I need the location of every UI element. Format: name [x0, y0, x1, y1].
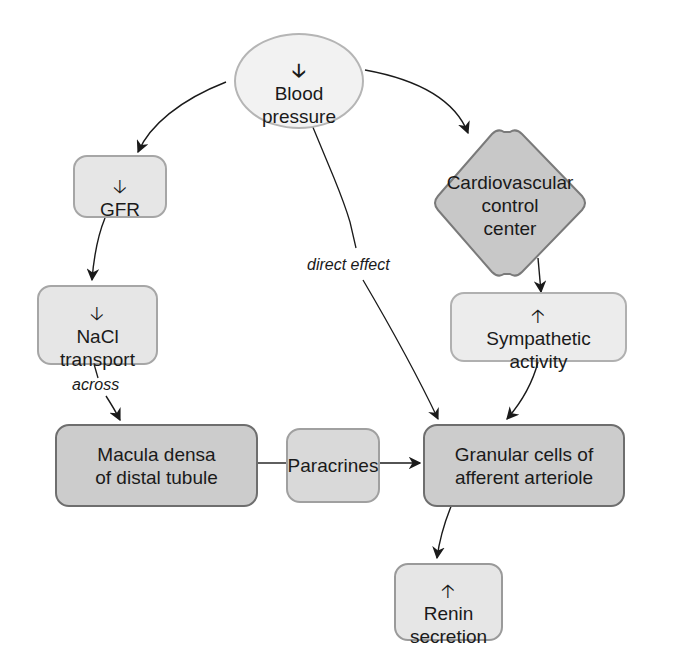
edge-bp-to-cardio: [365, 70, 468, 133]
node-macula-label: Macula densa of distal tubule: [95, 443, 218, 489]
node-cardiovascular-label: Cardiovascular control center: [447, 167, 574, 240]
node-gfr-label: GFR: [100, 199, 140, 220]
edge-gfr-to-nacl: [92, 218, 105, 280]
node-granular-label: Granular cells of afferent arteriole: [455, 443, 593, 489]
node-nacl-label: NaCl transport: [60, 326, 135, 370]
edge-bp-to-granular-part1: [312, 125, 356, 248]
decrease-arrow-icon: 🡣: [90, 303, 104, 324]
node-paracrines: Paracrines: [286, 428, 380, 503]
increase-arrow-icon: 🡡: [531, 305, 545, 326]
edge-bp-to-granular-part2: [363, 280, 438, 419]
node-sympathetic-label: Sympathetic activity: [486, 328, 591, 372]
node-nacl-transport: 🡣 NaCl transport: [37, 285, 158, 365]
decrease-arrow-icon: 🡣: [292, 60, 306, 81]
node-granular-cells: Granular cells of afferent arteriole: [423, 424, 625, 507]
node-blood-pressure: 🡣 Blood pressure: [234, 33, 364, 129]
decrease-arrow-icon: 🡣: [113, 176, 127, 197]
edge-label-across: across: [72, 376, 119, 394]
renin-regulation-diagram: 🡣 Blood pressure 🡣 GFR Cardiovascular co…: [0, 0, 676, 665]
node-renin-secretion: 🡡 Renin secretion: [394, 563, 503, 641]
node-cardiovascular: Cardiovascular control center: [430, 128, 590, 278]
node-renin-label: Renin secretion: [410, 603, 487, 647]
node-blood-pressure-label: Blood pressure: [262, 83, 336, 127]
node-sympathetic-activity: 🡡 Sympathetic activity: [450, 292, 627, 362]
increase-arrow-icon: 🡡: [441, 580, 455, 601]
node-gfr: 🡣 GFR: [73, 155, 167, 218]
edge-bp-to-gfr: [138, 82, 226, 152]
edge-label-direct-effect: direct effect: [307, 256, 390, 274]
node-paracrines-label: Paracrines: [288, 454, 379, 477]
edge-nacl-to-macula-part2: [106, 396, 120, 420]
node-macula-densa: Macula densa of distal tubule: [55, 424, 258, 507]
